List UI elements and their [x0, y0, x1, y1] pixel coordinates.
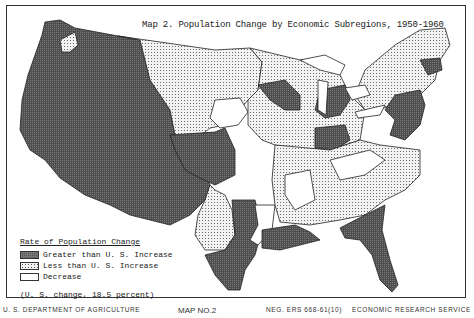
- legend-item-decrease: Decrease: [20, 271, 173, 282]
- legend: Rate of Population Change Greater than U…: [20, 237, 173, 299]
- footer-department: U. S. DEPARTMENT OF AGRICULTURE: [3, 306, 140, 313]
- crosshatch-swatch-icon: [20, 251, 39, 259]
- us-change-note: (U. S. change, 18.5 percent): [20, 290, 173, 299]
- region-plains-decrease: [210, 98, 248, 128]
- legend-title: Rate of Population Change: [20, 237, 173, 246]
- legend-label-greater: Greater than U. S. Increase: [43, 250, 173, 259]
- map-title: Map 2. Population Change by Economic Sub…: [142, 20, 444, 30]
- stipple-swatch-icon: [20, 262, 39, 270]
- region-gulf-greater: [262, 225, 320, 250]
- legend-item-greater: Greater than U. S. Increase: [20, 249, 173, 260]
- legend-item-less: Less than U. S. Increase: [20, 260, 173, 271]
- legend-label-decrease: Decrease: [43, 272, 81, 281]
- legend-label-less: Less than U. S. Increase: [43, 261, 158, 270]
- blank-swatch-icon: [20, 273, 39, 281]
- footer-service: ECONOMIC RESEARCH SERVICE: [352, 306, 471, 313]
- footer-neg-number: NEG. ERS 668-61(10): [266, 306, 342, 313]
- footer-map-number: MAP NO.2: [178, 306, 216, 315]
